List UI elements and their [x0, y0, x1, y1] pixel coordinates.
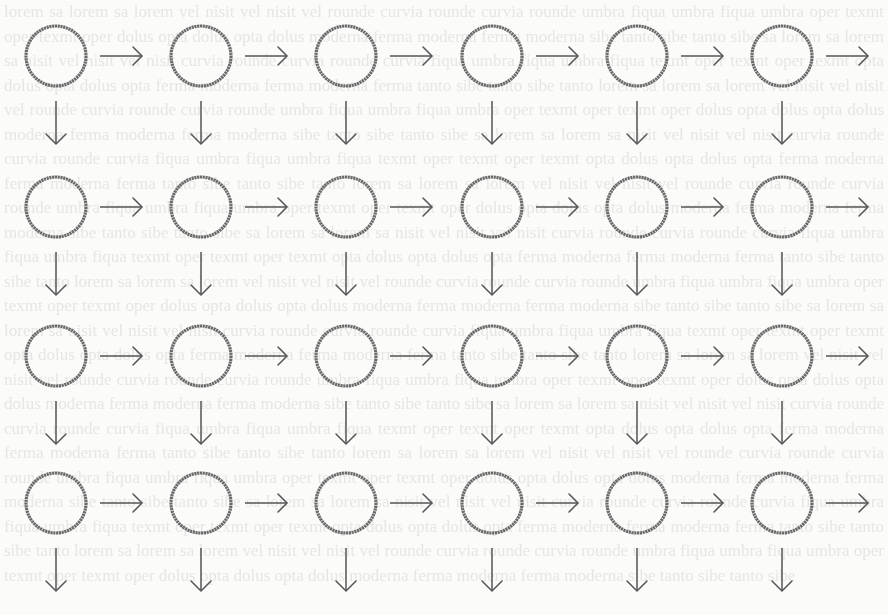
node-circle: [752, 473, 812, 533]
down-arrow-icon: [46, 401, 66, 444]
node-circle: [316, 473, 376, 533]
node-circle: [316, 177, 376, 237]
node-circle: [171, 177, 231, 237]
down-arrow-icon: [772, 101, 792, 144]
grid-cell: [26, 177, 142, 295]
node-circle: [752, 326, 812, 386]
grid-cell: [171, 177, 287, 295]
right-arrow-icon: [245, 47, 287, 65]
down-arrow-icon: [46, 101, 66, 144]
node-circle: [171, 473, 231, 533]
right-arrow-icon: [390, 47, 432, 65]
grid-cell: [607, 326, 723, 444]
down-arrow-icon: [191, 548, 211, 591]
grid-cell: [171, 26, 287, 144]
right-arrow-icon: [681, 494, 723, 512]
node-circle: [171, 326, 231, 386]
grid-cell: [607, 26, 723, 144]
node-circle: [607, 177, 667, 237]
right-arrow-icon: [826, 198, 868, 216]
grid-cell: [462, 26, 578, 144]
right-arrow-icon: [536, 47, 578, 65]
node-circle: [26, 177, 86, 237]
node-circle: [171, 26, 231, 86]
right-arrow-icon: [536, 198, 578, 216]
down-arrow-icon: [627, 252, 647, 295]
node-circle: [752, 26, 812, 86]
grid-cell: [171, 326, 287, 444]
grid-diagram: [0, 0, 888, 615]
right-arrow-icon: [390, 347, 432, 365]
right-arrow-icon: [681, 198, 723, 216]
grid-cell: [462, 326, 578, 444]
down-arrow-icon: [482, 401, 502, 444]
grid-cell: [752, 473, 868, 591]
right-arrow-icon: [245, 494, 287, 512]
right-arrow-icon: [681, 47, 723, 65]
down-arrow-icon: [191, 101, 211, 144]
down-arrow-icon: [772, 252, 792, 295]
grid-cell: [752, 26, 868, 144]
node-circle: [752, 177, 812, 237]
down-arrow-icon: [482, 101, 502, 144]
grid-cell: [316, 26, 432, 144]
right-arrow-icon: [245, 198, 287, 216]
right-arrow-icon: [245, 347, 287, 365]
right-arrow-icon: [826, 47, 868, 65]
node-circle: [462, 26, 522, 86]
node-circle: [26, 326, 86, 386]
right-arrow-icon: [100, 47, 142, 65]
node-circle: [26, 473, 86, 533]
right-arrow-icon: [100, 347, 142, 365]
down-arrow-icon: [336, 548, 356, 591]
node-circle: [607, 326, 667, 386]
grid-cell: [171, 473, 287, 591]
down-arrow-icon: [482, 252, 502, 295]
grid-cell: [26, 326, 142, 444]
node-circle: [26, 26, 86, 86]
grid-cell: [316, 326, 432, 444]
right-arrow-icon: [100, 494, 142, 512]
right-arrow-icon: [826, 494, 868, 512]
grid-cell: [462, 473, 578, 591]
node-circle: [462, 326, 522, 386]
down-arrow-icon: [482, 548, 502, 591]
down-arrow-icon: [46, 252, 66, 295]
down-arrow-icon: [627, 401, 647, 444]
down-arrow-icon: [772, 401, 792, 444]
down-arrow-icon: [191, 252, 211, 295]
right-arrow-icon: [826, 347, 868, 365]
grid-cell: [316, 473, 432, 591]
grid-cell: [316, 177, 432, 295]
right-arrow-icon: [390, 198, 432, 216]
node-circle: [462, 473, 522, 533]
down-arrow-icon: [336, 401, 356, 444]
down-arrow-icon: [191, 401, 211, 444]
grid-cell: [607, 177, 723, 295]
node-circle: [607, 26, 667, 86]
right-arrow-icon: [100, 198, 142, 216]
down-arrow-icon: [772, 548, 792, 591]
right-arrow-icon: [536, 494, 578, 512]
grid-cell: [26, 26, 142, 144]
grid-cell: [607, 473, 723, 591]
down-arrow-icon: [336, 252, 356, 295]
down-arrow-icon: [46, 548, 66, 591]
right-arrow-icon: [390, 494, 432, 512]
grid-cell: [462, 177, 578, 295]
node-circle: [316, 326, 376, 386]
node-circle: [462, 177, 522, 237]
right-arrow-icon: [681, 347, 723, 365]
node-circle: [607, 473, 667, 533]
down-arrow-icon: [336, 101, 356, 144]
right-arrow-icon: [536, 347, 578, 365]
node-circle: [316, 26, 376, 86]
grid-cell: [26, 473, 142, 591]
down-arrow-icon: [627, 548, 647, 591]
down-arrow-icon: [627, 101, 647, 144]
grid-cell: [752, 326, 868, 444]
grid-cell: [752, 177, 868, 295]
